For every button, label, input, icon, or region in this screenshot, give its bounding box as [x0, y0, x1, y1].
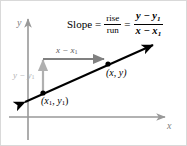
- rise-over-run-fraction: rise run: [104, 14, 121, 35]
- point-1-y-text: , y: [52, 95, 61, 106]
- run-label-subscript: 1: [75, 49, 78, 55]
- delta-y-subscript: 1: [157, 15, 161, 23]
- delta-fraction: y − y1 x − x1: [134, 11, 164, 37]
- delta-x-subscript: 1: [158, 29, 162, 37]
- point-1-label-close: ): [65, 95, 68, 106]
- rise-label-subscript: 1: [32, 74, 35, 80]
- equals-sign-1: =: [95, 19, 101, 30]
- run-denominator: run: [105, 25, 121, 35]
- delta-y-text: y − y: [136, 10, 157, 21]
- y-axis-label: y: [17, 18, 21, 28]
- slope-formula: Slope = rise run = y − y1 x − x1: [67, 11, 163, 37]
- point-2-label: (x, y): [106, 68, 127, 78]
- slope-word: Slope: [67, 19, 92, 30]
- equals-sign-2: =: [124, 19, 130, 30]
- delta-x-text: x − x: [136, 25, 158, 36]
- run-label: x − x1: [56, 46, 78, 55]
- point-1-label: (x1, y1): [41, 96, 68, 107]
- run-label-text: x − x: [56, 45, 75, 55]
- point-1-x-text: (x: [41, 95, 49, 106]
- slope-formula-figure: Slope = rise run = y − y1 x − x1 y x (x1…: [0, 0, 187, 146]
- rise-label: y − y1: [13, 71, 35, 80]
- x-axis-label: x: [167, 121, 171, 131]
- rise-label-text: y − y: [13, 70, 32, 80]
- point-2-dot: [105, 61, 110, 66]
- delta-x-denominator: x − x1: [134, 25, 164, 38]
- rise-numerator: rise: [104, 14, 121, 25]
- delta-y-numerator: y − y1: [134, 11, 163, 25]
